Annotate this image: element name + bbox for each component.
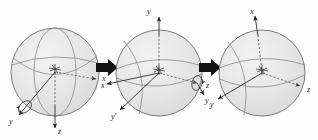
- panel3-x-label: x: [249, 7, 254, 16]
- panel-2-after-first-rotation: y x z y' y: [100, 7, 210, 121]
- panel2-x-label: x: [100, 81, 105, 90]
- figure-root: x y z: [0, 0, 318, 140]
- panel-1-initial-frame: x y z: [8, 28, 106, 136]
- panel2-y-prime-label: y': [110, 112, 117, 121]
- panel-3-after-second-rotation: x y z: [209, 7, 311, 116]
- panel2-y-secondary-label: y: [204, 96, 209, 105]
- panel1-y-label: y: [8, 117, 13, 126]
- panel2-z-label: z: [205, 81, 210, 90]
- rotating-frames-diagram: x y z: [0, 0, 318, 140]
- panel3-y-label: y: [209, 100, 214, 109]
- panel2-y-label: y: [146, 7, 151, 16]
- panel3-z-label: z: [306, 85, 311, 94]
- panel1-z-label: z: [57, 127, 62, 136]
